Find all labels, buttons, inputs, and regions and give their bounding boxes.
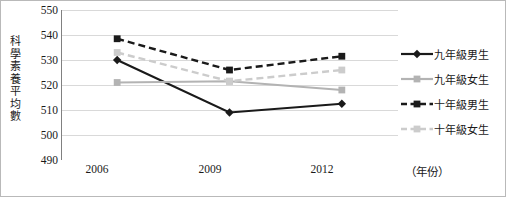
y-axis-title-char: 數 [7, 110, 23, 123]
data-point-marker [226, 67, 233, 74]
data-point-marker [114, 35, 121, 42]
legend-label-grade10-boys: 十年級男生 [434, 96, 489, 112]
y-tick-490: 490 [32, 154, 58, 166]
legend-key-grade9-boys [400, 47, 434, 61]
legend-key-grade10-boys [400, 97, 434, 111]
legend-item-grade9-boys: 九年級男生 [400, 41, 505, 66]
legend-key-swatch [400, 72, 434, 86]
y-tick-520: 520 [32, 79, 58, 91]
y-axis-title-char: 均 [7, 98, 23, 111]
y-axis-title-char: 平 [7, 85, 23, 98]
chart-container: 科 學 素 養 平 均 數 550 540 530 520 510 500 49… [0, 0, 506, 197]
y-axis-title-char: 養 [7, 73, 23, 86]
legend-item-grade10-girls: 十年級女生 [400, 116, 505, 141]
legend-label-grade9-boys: 九年級男生 [434, 46, 489, 62]
legend-item-grade9-girls: 九年級女生 [400, 66, 505, 91]
y-axis-tick-labels: 550 540 530 520 510 500 490 [29, 1, 58, 198]
x-tick-2006: 2006 [67, 163, 127, 175]
y-tick-540: 540 [32, 29, 58, 41]
y-tick-500: 500 [32, 129, 58, 141]
data-point-marker [225, 108, 233, 116]
legend-key-swatch [400, 97, 434, 111]
data-point-marker [113, 56, 121, 64]
legend-key-grade10-girls [400, 122, 434, 136]
x-tick-2012: 2012 [292, 163, 352, 175]
y-tick-530: 530 [32, 54, 58, 66]
y-axis-title: 科 學 素 養 平 均 數 [7, 35, 23, 123]
y-tick-510: 510 [32, 104, 58, 116]
data-point-marker [338, 53, 345, 60]
data-point-marker [226, 78, 233, 85]
legend-key-swatch [400, 47, 434, 61]
data-point-marker [338, 67, 345, 74]
data-point-marker [338, 87, 345, 94]
x-axis-unit-label: （年份） [405, 163, 449, 179]
y-tick-550: 550 [32, 4, 58, 16]
data-point-marker [114, 79, 121, 86]
plot-area [61, 10, 398, 160]
series-line-2 [117, 39, 342, 70]
data-point-marker [114, 49, 121, 56]
legend-label-grade10-girls: 十年級女生 [434, 121, 489, 137]
legend-item-grade10-boys: 十年級男生 [400, 91, 505, 116]
y-axis-title-char: 素 [7, 60, 23, 73]
data-point-marker [338, 100, 346, 108]
y-axis-title-char: 學 [7, 48, 23, 61]
chart-plot-svg [61, 10, 398, 160]
chart-legend: 九年級男生 九年級女生 十年級男生 十年級女生 [400, 41, 505, 141]
legend-label-grade9-girls: 九年級女生 [434, 71, 489, 87]
legend-key-swatch [400, 122, 434, 136]
x-tick-2009: 2009 [180, 163, 240, 175]
y-axis-title-char: 科 [7, 35, 23, 48]
legend-key-grade9-girls [400, 72, 434, 86]
